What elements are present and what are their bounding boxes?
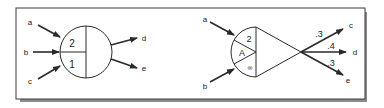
left-output-label-d: d [142,34,146,43]
right-region-bottom-label: ∞ [248,64,253,71]
left-input-label-c: c [28,77,32,86]
right-output-weight-c: .3 [315,29,323,39]
right-output-label-c: c [349,21,353,30]
right-input-label-b: b [203,82,208,91]
right-output-label-d: d [353,48,357,57]
right-region-middle-label: A [239,48,245,58]
right-region-top-label: 2 [246,34,251,44]
right-output-weight-d: .4 [327,41,335,51]
right-output-weight-e: .3 [327,58,335,68]
left-region-top-label: 2 [69,38,75,49]
right-input-label-a: a [203,15,208,24]
frame-border [16,8,365,99]
right-output-label-e: e [346,76,351,85]
diagram-canvas: 2 1 a b c d e 2 A ∞ a b [0,0,384,108]
left-input-label-b: b [24,48,29,57]
left-region-bottom-label: 1 [69,59,75,70]
diagram-figure: 2 1 a b c d e 2 A ∞ a b [0,0,384,108]
left-output-label-e: e [142,64,147,73]
left-input-label-a: a [28,18,33,27]
